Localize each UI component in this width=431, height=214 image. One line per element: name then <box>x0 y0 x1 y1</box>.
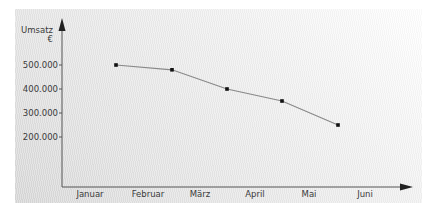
data-point-marker <box>280 99 284 103</box>
series-umsatz <box>114 63 340 127</box>
y-tick-label: 500.000 <box>23 60 58 70</box>
data-point-marker <box>114 63 118 67</box>
y-tick-label: 400.000 <box>23 84 58 94</box>
y-ticks: 500.000400.000300.000200.000 <box>23 60 62 142</box>
x-tick-label: Juni <box>356 189 373 199</box>
y-axis-unit: € <box>48 34 53 44</box>
data-point-marker <box>225 87 229 91</box>
x-tick-label: April <box>245 189 264 199</box>
x-tick-label: Mai <box>302 189 317 199</box>
data-point-marker <box>336 123 340 127</box>
series-line <box>116 65 338 125</box>
x-tick-label: März <box>190 189 211 199</box>
x-tick-label: Februar <box>132 189 165 199</box>
x-axis-arrow-icon <box>400 184 413 191</box>
y-axis-arrow-icon <box>59 18 66 31</box>
x-ticks: JanuarFebruarMärzAprilMaiJuni <box>75 189 372 199</box>
x-tick-label: Januar <box>75 189 104 199</box>
y-tick-label: 300.000 <box>23 108 58 118</box>
line-chart: Umsatz € 500.000400.000300.000200.000 Ja… <box>0 0 431 214</box>
data-point-marker <box>170 68 174 72</box>
y-tick-label: 200.000 <box>23 132 58 142</box>
